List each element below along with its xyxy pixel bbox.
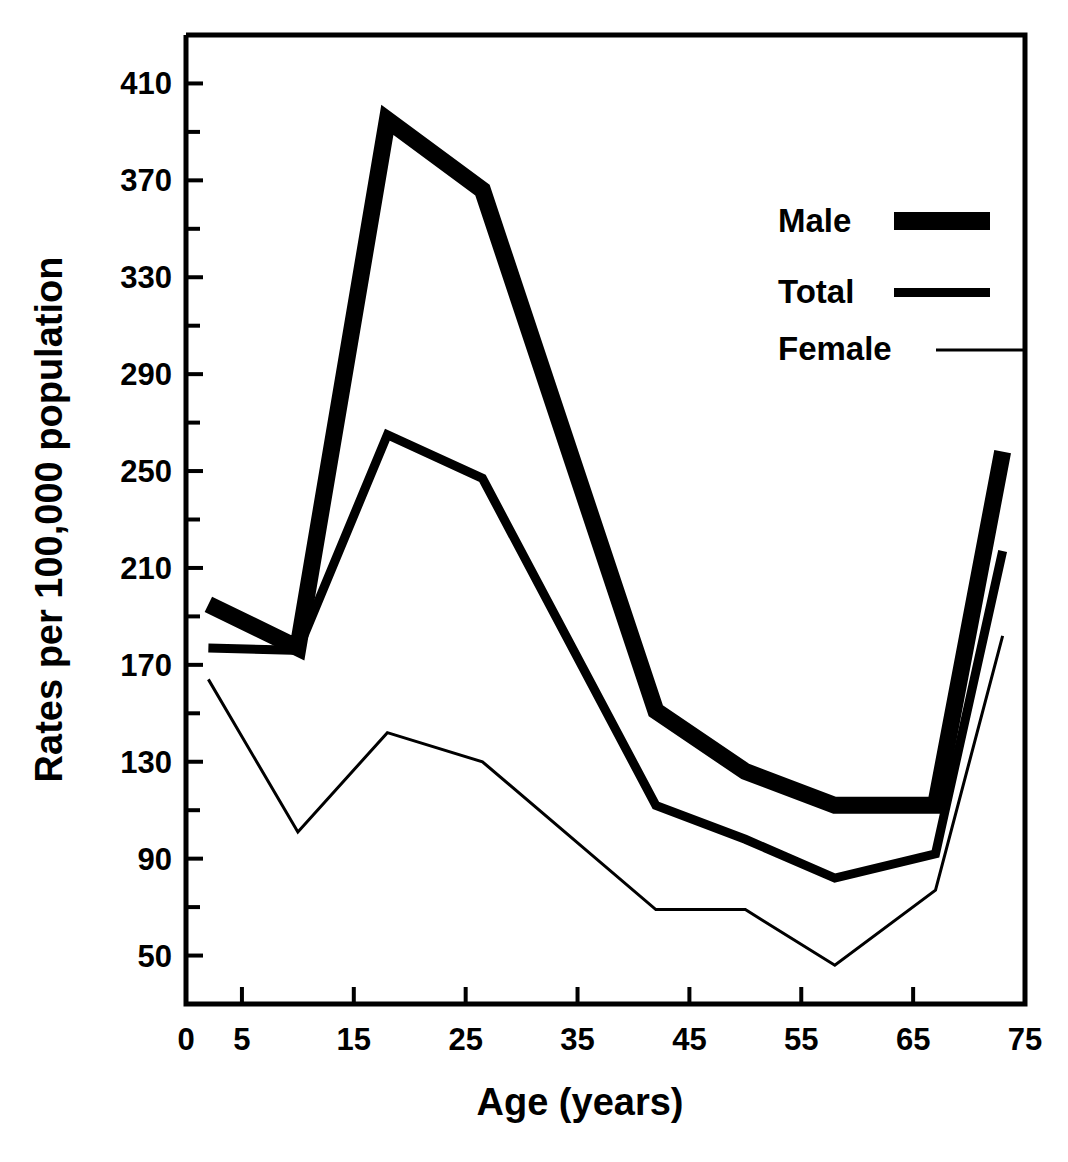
x-tick-label: 15 — [337, 1022, 371, 1057]
x-axis-ticks — [242, 987, 913, 1004]
y-tick-label: 330 — [120, 260, 172, 295]
legend-label-female: Female — [778, 330, 892, 367]
legend-label-total: Total — [778, 273, 854, 310]
x-tick-label: 55 — [784, 1022, 818, 1057]
legend-label-male: Male — [778, 202, 851, 239]
x-tick-label: 25 — [448, 1022, 482, 1057]
x-tick-label: 65 — [896, 1022, 930, 1057]
chart-figure: 5090130170210250290330370410 05152535455… — [0, 0, 1068, 1162]
x-tick-label: 5 — [233, 1022, 250, 1057]
y-tick-label: 90 — [138, 842, 172, 877]
y-tick-label: 370 — [120, 163, 172, 198]
x-tick-label: 45 — [672, 1022, 706, 1057]
line-chart-canvas: 5090130170210250290330370410 05152535455… — [0, 0, 1068, 1162]
y-tick-label: 170 — [120, 648, 172, 683]
data-series-layer — [208, 120, 1002, 965]
legend-swatch-total — [894, 288, 990, 297]
y-axis-title: Rates per 100,000 population — [28, 257, 70, 783]
y-tick-label: 290 — [120, 357, 172, 392]
x-axis-title: Age (years) — [477, 1081, 684, 1123]
x-axis-tick-labels: 0515253545556575 — [177, 1022, 1042, 1057]
legend-swatch-male — [894, 212, 990, 230]
y-tick-label: 250 — [120, 454, 172, 489]
y-axis-ticks — [186, 83, 203, 955]
y-tick-label: 210 — [120, 551, 172, 586]
y-tick-label: 410 — [120, 66, 172, 101]
y-tick-label: 130 — [120, 745, 172, 780]
chart-legend: Male Total Female — [778, 202, 1026, 367]
y-axis-tick-labels: 5090130170210250290330370410 — [120, 66, 172, 973]
x-tick-label: 75 — [1008, 1022, 1042, 1057]
x-tick-label: 0 — [177, 1022, 194, 1057]
x-tick-label: 35 — [560, 1022, 594, 1057]
y-tick-label: 50 — [138, 939, 172, 974]
